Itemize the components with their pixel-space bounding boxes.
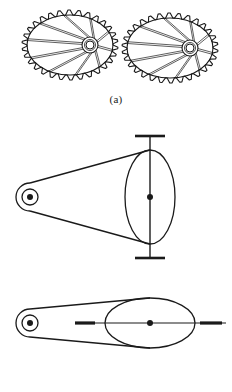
gear-spoke xyxy=(31,48,83,58)
gear-spoke xyxy=(50,52,87,71)
gear-spoke xyxy=(32,49,84,59)
gear-spoke xyxy=(98,33,110,43)
gear-spoke xyxy=(65,15,90,37)
gear-spoke xyxy=(28,41,82,45)
gear-spoke xyxy=(141,26,185,42)
left-elliptical-gear xyxy=(22,10,118,80)
gear-spoke xyxy=(165,18,190,40)
gear-spoke xyxy=(98,46,112,50)
right-elliptical-gear xyxy=(122,13,218,83)
gear-teeth-rim xyxy=(22,10,118,80)
panel-b-belt-drives: (b) xyxy=(0,115,232,392)
gear-spokes xyxy=(28,15,113,75)
small-pulley-center-dot xyxy=(27,194,33,200)
gear-spoke xyxy=(198,36,210,46)
gear-spoke xyxy=(28,39,82,43)
horizontal-shaft-view xyxy=(16,298,226,348)
small-pulley-center-dot xyxy=(27,320,33,326)
gear-spoke xyxy=(97,31,109,41)
gear-teeth-rim xyxy=(122,13,218,83)
gear-spoke xyxy=(98,47,112,51)
gear-spoke xyxy=(198,50,212,54)
gear-spoke xyxy=(198,49,212,53)
belt-top-span xyxy=(30,150,150,183)
caption-a: (a) xyxy=(0,93,232,105)
belt-bottom-span xyxy=(30,211,150,244)
gear-spokes xyxy=(128,18,213,78)
figure-root: (a) (b) xyxy=(0,0,232,392)
gear-spoke xyxy=(150,55,187,74)
belt-drive-svg xyxy=(0,115,232,392)
gear-spoke xyxy=(40,24,84,40)
gear-spoke xyxy=(128,42,182,46)
gear-spoke xyxy=(41,23,85,39)
gear-spoke xyxy=(128,44,182,48)
gear-spoke xyxy=(140,27,184,43)
gear-spoke xyxy=(131,51,183,61)
gear-spoke xyxy=(197,34,209,44)
gear-hub-bore xyxy=(186,44,194,52)
gear-spoke xyxy=(132,52,184,62)
gear-hub-bore xyxy=(86,41,94,49)
panel-a-elliptical-gears: (a) xyxy=(0,0,232,115)
vertical-shaft-view xyxy=(16,136,175,258)
